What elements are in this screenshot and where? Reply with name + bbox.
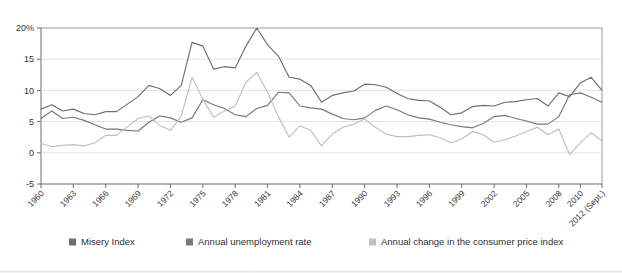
x-tick-label: 1975	[187, 188, 208, 209]
x-tick-label: 2005	[511, 188, 532, 209]
x-tick-label: 1987	[317, 188, 338, 209]
chart-figure: 20%151050-5 1960196319661969197219751978…	[0, 0, 622, 273]
x-tick-label: 1990	[349, 188, 370, 209]
x-tick-label: 1999	[446, 188, 467, 209]
legend-label: Annual unemployment rate	[198, 236, 312, 247]
y-tick-label: 5	[29, 117, 34, 127]
y-tick-label: 20%	[16, 23, 34, 33]
legend-label: Annual change in the consumer price inde…	[381, 236, 563, 247]
x-tick-label: 1963	[58, 188, 79, 209]
x-tick-label: 1966	[90, 188, 111, 209]
x-tick-label: 1981	[252, 188, 273, 209]
y-tick-label: 0	[29, 148, 34, 158]
y-tick-label: 15	[24, 54, 34, 64]
series-line-0	[41, 28, 602, 115]
y-axis-ticks	[37, 28, 41, 184]
legend-swatch	[69, 239, 76, 246]
y-axis-tick-labels: 20%151050-5	[16, 23, 34, 189]
x-tick-label: 2002	[479, 188, 500, 209]
y-tick-label: 10	[24, 86, 34, 96]
x-tick-label: 1996	[414, 188, 435, 209]
data-series-group	[41, 28, 602, 155]
x-axis-tick-labels: 1960196319661969197219751978198119841987…	[25, 188, 607, 228]
x-tick-label: 1978	[220, 188, 241, 209]
x-tick-label: 1993	[381, 188, 402, 209]
x-tick-label: 1972	[155, 188, 176, 209]
chart-legend: Misery IndexAnnual unemployment rateAnnu…	[69, 236, 563, 247]
misery-index-line-chart: 20%151050-5 1960196319661969197219751978…	[0, 0, 622, 273]
x-tick-label: 1969	[123, 188, 144, 209]
x-tick-label: 2008	[543, 188, 564, 209]
x-tick-label: 1960	[25, 188, 46, 209]
x-axis-ticks	[41, 184, 602, 188]
legend-swatch	[186, 239, 193, 246]
legend-swatch	[369, 239, 376, 246]
x-tick-label: 1984	[284, 188, 305, 209]
series-line-1	[41, 92, 602, 131]
legend-label: Misery Index	[81, 236, 135, 247]
series-line-2	[41, 72, 602, 154]
y-tick-label: -5	[26, 179, 34, 189]
